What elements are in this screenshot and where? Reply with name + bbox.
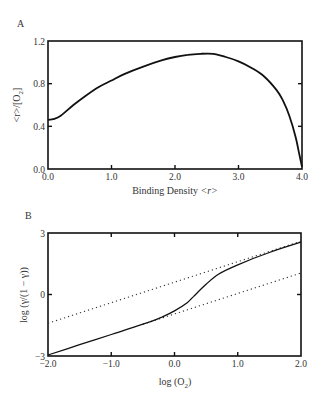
panel-a-label: A	[17, 18, 25, 29]
x-tick-label: 1.0	[232, 359, 244, 369]
x-tick-label: 2.0	[295, 359, 307, 369]
x-tick-label: 0.0	[169, 359, 181, 369]
panel-b-y-ticks: −303	[35, 229, 301, 362]
panel-a-x-axis-label: Binding Density <r>	[132, 185, 218, 196]
y-tick-label: 0	[40, 290, 45, 300]
panel-b-label: B	[25, 210, 32, 221]
y-tick-label: −3	[35, 352, 45, 362]
panel-b-plot-frame	[48, 233, 301, 356]
panel-b-x-axis-label: log (O2)	[159, 376, 192, 390]
y-tick-label: 3	[40, 229, 45, 239]
panel-a-plot-frame	[48, 41, 302, 169]
y-tick-label: 0.8	[33, 79, 45, 89]
panel-a: A 0.01.02.03.04.0 0.00.40.81.2 Binding D…	[11, 18, 308, 196]
panel-a-y-axis-label: <r>/[O2]	[11, 88, 25, 123]
x-tick-label: 2.0	[169, 172, 181, 182]
y-tick-label: 0.0	[33, 165, 45, 175]
panel-b-hill-curve	[48, 242, 301, 355]
x-tick-label: 1.0	[106, 172, 118, 182]
panel-a-curve	[48, 54, 302, 167]
panel-b-lower-asymptote	[143, 273, 301, 324]
panel-a-x-ticks: 0.01.02.03.04.0	[42, 165, 308, 182]
panel-b-y-axis-label: log (γ/(1 − γ))	[18, 267, 30, 323]
figure: A 0.01.02.03.04.0 0.00.40.81.2 Binding D…	[0, 0, 323, 402]
y-tick-label: 1.2	[33, 37, 45, 47]
x-tick-label: 4.0	[296, 172, 308, 182]
x-tick-label: 3.0	[233, 172, 245, 182]
x-tick-label: −1.0	[103, 359, 120, 369]
panel-b: B −2.0−1.00.01.02.0 −303 log (O2) log (γ…	[18, 210, 307, 390]
y-tick-label: 0.4	[33, 122, 45, 132]
